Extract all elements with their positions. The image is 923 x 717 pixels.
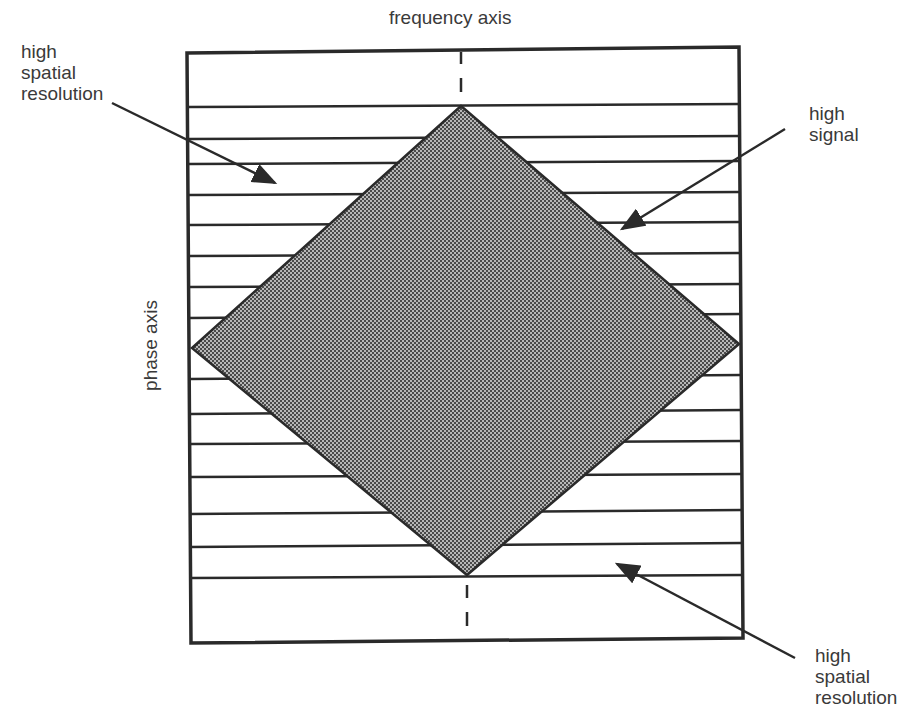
arrow-high-signal (622, 129, 785, 229)
k-space-diagram (0, 0, 923, 717)
arrow-high-spatial-resolution-bottom (617, 564, 795, 658)
arrow-high-spatial-resolution-top (112, 103, 275, 183)
high-signal-diamond (192, 106, 739, 575)
